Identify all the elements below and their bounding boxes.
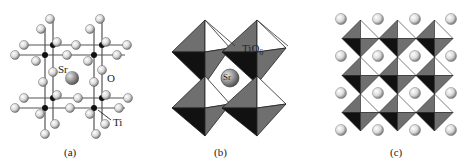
panel-b-octahedra: TiO6 Sr (b) <box>160 0 310 168</box>
sr-label: Sr <box>58 64 68 75</box>
tio6-label-subscript: 6 <box>259 48 263 57</box>
caption-c: (c) <box>390 147 402 158</box>
octahedra-diagram <box>160 0 310 168</box>
panel-a-ball-and-stick: Sr O Ti (a) <box>0 0 160 168</box>
tio6-label-main: TiO <box>242 42 259 54</box>
caption-a: (a) <box>64 147 76 158</box>
lattice-diagram <box>310 0 469 168</box>
sr-label-b: Sr <box>223 73 231 82</box>
ball-and-stick-diagram <box>0 0 160 168</box>
caption-b: (b) <box>214 147 227 158</box>
ti-label: Ti <box>113 117 122 128</box>
panel-c-lattice: (c) <box>310 0 469 168</box>
o-label: O <box>107 73 115 84</box>
tio6-label: TiO6 <box>242 43 263 57</box>
